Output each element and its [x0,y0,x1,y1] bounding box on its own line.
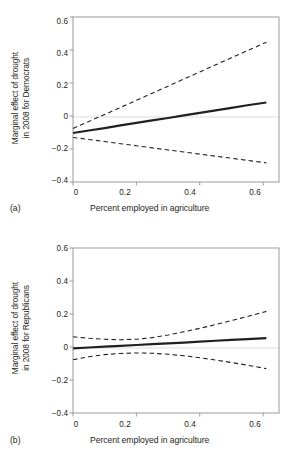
panel-a: Marginal effect of drought in 2008 for D… [0,0,304,228]
panel-a-plot [0,0,304,228]
panel-b-estimate-line [73,338,266,348]
panel-a-frame [73,17,279,182]
figure-marginal-effects: Marginal effect of drought in 2008 for D… [0,0,304,462]
panel-b-frame [73,248,279,413]
panel-a-estimate-line [73,102,266,133]
panel-a-upper-ci-line [73,42,266,128]
panel-a-lower-ci-line [73,137,266,162]
panel-b-plot [0,230,304,462]
panel-a-tick-marks [70,17,264,186]
panel-b-lower-ci-line [73,353,266,369]
panel-b-upper-ci-line [73,311,266,339]
panel-b: Marginal effect of drought in 2008 for R… [0,230,304,462]
panel-b-tick-marks [70,248,264,417]
